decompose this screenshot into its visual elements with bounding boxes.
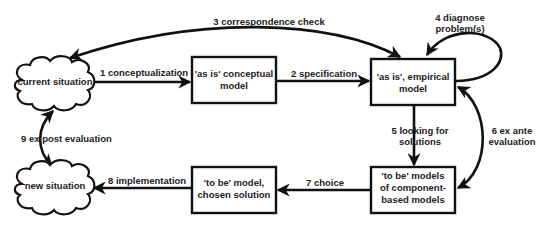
edge-9-ex-post-evaluation: 9 ex post evaluation [21, 111, 112, 166]
node-to-be-component-models: 'to be' models of component- based model… [371, 167, 455, 213]
edge-label-1: 1 conceptualization [100, 67, 188, 78]
node-as-is-empirical-model: 'as is', empirical model [371, 59, 455, 105]
node-label-line: 'to be' models [381, 170, 444, 181]
edge-label-9: 9 ex post evaluation [21, 133, 112, 144]
edge-label-5-line1: 5 looking for [392, 125, 449, 136]
edge-label-8: 8 implementation [108, 175, 186, 186]
edge-3-correspondence-check: 3 correspondence check [70, 16, 400, 58]
edge-6-ex-ante-evaluation: 6 ex ante evaluation [458, 87, 536, 188]
edge-label-6-line2: evaluation [489, 136, 536, 147]
edge-label-2: 2 specification [291, 68, 357, 79]
node-new-situation: new situation [15, 160, 94, 214]
edge-8-implementation: 8 implementation [94, 175, 191, 188]
node-label-line: model [399, 83, 427, 94]
edge-2-specification: 2 specification [277, 68, 369, 81]
process-diagram: 3 correspondence check 1 conceptualizati… [0, 0, 540, 229]
edge-label-3: 3 correspondence check [213, 16, 325, 27]
node-label: new situation [25, 180, 86, 191]
node-label-line: 'to be' model, [204, 177, 264, 188]
node-to-be-chosen-solution: 'to be' model, chosen solution [192, 167, 276, 213]
edge-label-4-line1: 4 diagnose [435, 12, 485, 23]
edge-label-4-line2: problem(s) [435, 23, 484, 34]
edge-label-5-line2: solutions [399, 136, 441, 147]
node-label-line: model [220, 80, 248, 91]
node-label-line: 'as is', empirical [377, 71, 450, 82]
edge-1-conceptualization: 1 conceptualization [95, 67, 190, 82]
edge-label-6-line1: 6 ex ante [492, 125, 533, 136]
node-label-line: chosen solution [198, 189, 271, 200]
node-label: current situation [18, 76, 93, 87]
edge-label-7: 7 choice [306, 177, 344, 188]
edge-5-looking-for-solutions: 5 looking for solutions [392, 105, 449, 165]
node-as-is-conceptual-model: 'as is' conceptual model [192, 57, 276, 103]
node-label-line: based models [381, 194, 444, 205]
node-label-line: of component- [380, 182, 446, 193]
edge-7-choice: 7 choice [278, 177, 370, 190]
node-current-situation: current situation [15, 56, 94, 110]
node-label-line: 'as is' conceptual [195, 68, 273, 79]
